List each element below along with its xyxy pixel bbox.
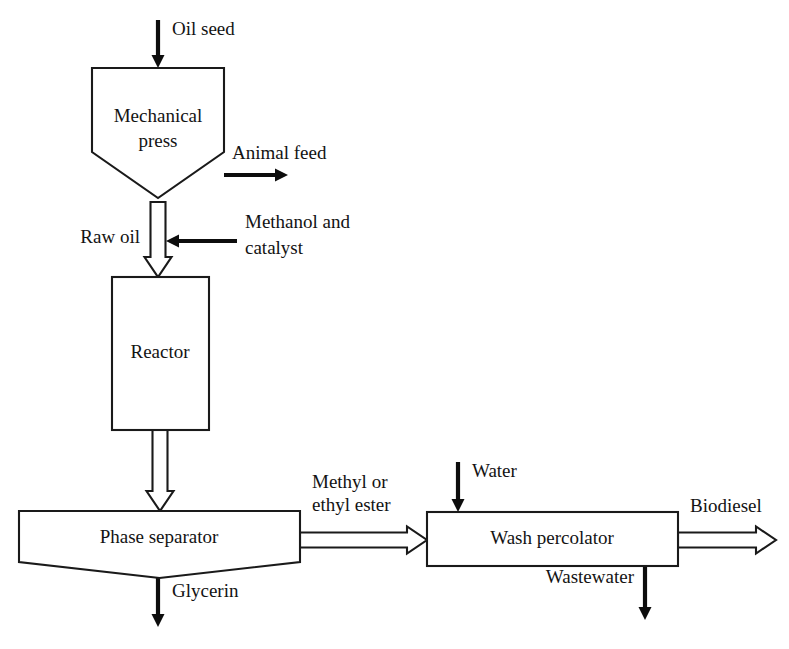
block-arrow-raw-oil [145, 202, 172, 277]
stream-label-methanol-and-catalyst: Methanol and [245, 211, 351, 232]
unit-mechanical-press[interactable]: Mechanicalpress [92, 68, 224, 198]
block-arrow-reactor-to-separator [147, 430, 174, 511]
stream-label2-methyl-or-ethyl-ester: ethyl ester [312, 494, 391, 515]
unit-phase-separator[interactable]: Phase separator [19, 511, 300, 578]
stream-label-oil-seed: Oil seed [172, 18, 235, 39]
arrow-head-glycerin [152, 614, 165, 627]
stream-label-raw-oil: Raw oil [80, 226, 140, 247]
block-arrow-methyl-or-ethyl-ester [300, 527, 427, 554]
unit-label-wash-percolator: Wash percolator [490, 527, 614, 548]
stream-label-methyl-or-ethyl-ester: Methyl or [312, 471, 388, 492]
stream-label-wastewater: Wastewater [546, 566, 635, 587]
unit-wash-percolator[interactable]: Wash percolator [427, 512, 678, 566]
arrow-head-wastewater [639, 607, 652, 620]
flow-diagram-canvas: MechanicalpressReactorPhase separatorWas… [0, 0, 789, 649]
stream-label-biodiesel: Biodiesel [690, 495, 762, 516]
process-flow-diagram: MechanicalpressReactorPhase separatorWas… [0, 0, 789, 649]
stream-animal-feed[interactable] [224, 169, 288, 182]
arrow-head-oil-seed [152, 55, 165, 68]
stream-glycerin[interactable] [152, 578, 165, 627]
arrow-head-animal-feed [275, 169, 288, 182]
unit-label-reactor: Reactor [130, 341, 190, 362]
unit-label-mechanical-press: Mechanical [114, 105, 203, 126]
stream-wastewater[interactable] [639, 566, 652, 620]
stream-label2-methanol-and-catalyst: catalyst [245, 237, 304, 258]
stream-label-water: Water [472, 460, 518, 481]
stream-methanol-and-catalyst[interactable] [166, 235, 237, 248]
stream-label-animal-feed: Animal feed [232, 142, 327, 163]
unit-label-phase-separator: Phase separator [100, 526, 219, 547]
stream-raw-oil[interactable] [145, 202, 172, 277]
stream-biodiesel[interactable] [678, 527, 776, 554]
stream-oil-seed[interactable] [152, 20, 165, 68]
stream-label-glycerin: Glycerin [172, 580, 239, 601]
stream-reactor-to-separator[interactable] [147, 430, 174, 511]
arrow-head-water [452, 499, 465, 512]
unit-reactor[interactable]: Reactor [112, 277, 209, 430]
stream-water[interactable] [452, 462, 465, 512]
unit-label2-mechanical-press: press [138, 130, 177, 151]
block-arrow-biodiesel [678, 527, 776, 554]
stream-methyl-or-ethyl-ester[interactable] [300, 527, 427, 554]
arrow-head-methanol-and-catalyst [166, 235, 179, 248]
